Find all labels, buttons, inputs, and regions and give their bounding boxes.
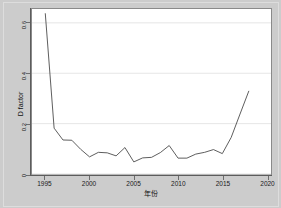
chart-figure: D factor 00.20.40.6 19952000200520102015… bbox=[0, 0, 281, 208]
y-tick-label: 0 bbox=[21, 174, 27, 198]
x-axis-title: 年份 bbox=[144, 188, 158, 198]
x-tick-label: 1995 bbox=[37, 180, 51, 187]
x-tick-label: 2020 bbox=[260, 180, 274, 187]
y-tick-label: 0.6 bbox=[21, 21, 27, 45]
x-tick-label: 2005 bbox=[126, 180, 140, 187]
plot-area bbox=[31, 8, 272, 175]
x-tick-label: 2000 bbox=[82, 180, 96, 187]
x-tick-label: 2015 bbox=[216, 180, 230, 187]
y-tick-label: 0.2 bbox=[21, 123, 27, 147]
x-axis-spine bbox=[30, 175, 272, 176]
y-tick-label: 0.4 bbox=[21, 72, 27, 96]
data-line-series bbox=[32, 9, 271, 174]
x-tick-label: 2010 bbox=[171, 180, 185, 187]
